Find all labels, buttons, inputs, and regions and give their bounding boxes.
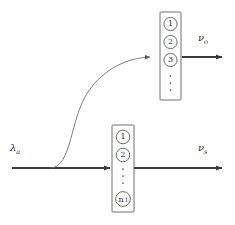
diagram-canvas: 1 2 3 1 2 n 1 λa νo νs <box>0 0 235 225</box>
output-bottom-frequency-subscript: s <box>204 148 207 156</box>
output-bottom-frequency-label: νs <box>198 143 207 156</box>
upper-node-label-2: 2 <box>168 37 173 46</box>
upper-node-label-3: 3 <box>168 55 173 64</box>
upper-node-label-1: 1 <box>168 19 173 28</box>
lower-node-label-n-subscript: 1 <box>125 196 129 203</box>
input-wavelength-label: λa <box>10 143 20 156</box>
lower-node-label-1: 1 <box>120 132 125 141</box>
lower-node-label-2: 2 <box>120 150 125 159</box>
input-wavelength-subscript: a <box>16 148 20 156</box>
output-top-frequency-subscript: o <box>204 38 208 46</box>
output-top-frequency-label: νo <box>198 33 208 46</box>
lower-node-label-n: n <box>118 195 123 204</box>
branch-s-curve <box>50 57 150 168</box>
